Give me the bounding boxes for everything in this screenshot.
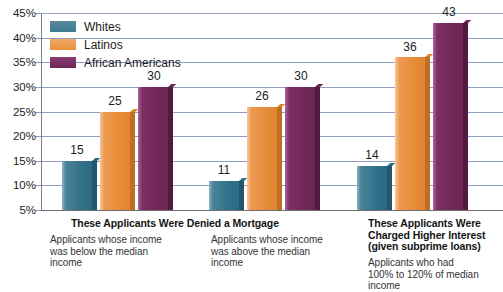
y-axis-label: 35%	[0, 56, 36, 68]
caption-group3-line1: Applicants who had	[368, 257, 454, 269]
bar-whites-group3	[357, 166, 387, 210]
bar-latinos-group3	[395, 57, 425, 210]
bar-african-americans-group1	[138, 87, 168, 210]
bar-face	[247, 107, 277, 210]
bar-value-label: 30	[294, 69, 307, 83]
y-axis-label: 30%	[0, 81, 36, 93]
bar-side	[92, 161, 97, 210]
bar-african-americans-group3	[433, 23, 463, 210]
bar-side	[130, 112, 135, 211]
y-axis-label: 20%	[0, 130, 36, 142]
bar-african-americans-group2	[285, 87, 315, 210]
bar-side	[315, 87, 320, 210]
bar-value-label: 26	[255, 89, 268, 103]
bar-value-label: 43	[442, 5, 455, 19]
bar-latinos-group2	[247, 107, 277, 210]
bar-value-label: 25	[108, 94, 121, 108]
bar-value-label: 15	[70, 143, 83, 157]
y-axis-label: 25%	[0, 106, 36, 118]
bar-face	[100, 112, 130, 211]
legend-item-latinos: Latinos	[50, 36, 181, 53]
bar-side	[168, 87, 173, 210]
caption-group2-line1: Applicants whose income	[211, 234, 323, 246]
bar-side	[277, 107, 282, 210]
legend-swatch-icon	[50, 39, 76, 50]
y-axis-label: 10%	[0, 179, 36, 191]
bar-side	[387, 166, 392, 210]
bar-top	[168, 84, 176, 87]
bar-face	[62, 161, 92, 210]
caption-group1-line2: was below the median	[50, 246, 148, 258]
bar-side	[239, 181, 244, 211]
bar-value-label: 14	[365, 148, 378, 162]
caption-heading-denied: These Applicants Were Denied a Mortgage	[71, 218, 279, 230]
bar-top	[463, 20, 471, 23]
bar-face	[209, 181, 239, 211]
caption-heading-interest-line1: These Applicants Were	[368, 218, 481, 230]
legend-label: Latinos	[84, 38, 123, 52]
bar-side	[425, 57, 430, 210]
legend-swatch-icon	[50, 21, 76, 32]
legend-label: Whites	[84, 20, 121, 34]
caption-heading-interest-line3: (given subprime loans)	[368, 241, 481, 253]
bar-whites-group2	[209, 181, 239, 211]
y-axis-label: 15%	[0, 155, 36, 167]
caption-group2-line3: income	[211, 257, 243, 269]
bar-latinos-group1	[100, 112, 130, 211]
bar-face	[138, 87, 168, 210]
y-axis-label: 40%	[0, 32, 36, 44]
bar-value-label: 11	[218, 163, 230, 177]
legend-label: African Americans	[84, 56, 181, 70]
caption-group3-line2: 100% to 120% of median	[368, 269, 479, 281]
bar-top	[315, 84, 323, 87]
y-axis-label: 45%	[0, 7, 36, 19]
bar-value-label: 36	[403, 40, 416, 54]
caption-group3-line3: income	[368, 280, 400, 292]
bar-whites-group1	[62, 161, 92, 210]
bar-side	[463, 23, 468, 210]
caption-group2-line2: was above the median	[211, 246, 310, 258]
bar-face	[395, 57, 425, 210]
legend-item-whites: Whites	[50, 18, 181, 35]
chart-captions: These Applicants Were Denied a Mortgage …	[0, 214, 503, 288]
bar-face	[433, 23, 463, 210]
bar-face	[285, 87, 315, 210]
caption-group1-line1: Applicants whose income	[50, 234, 162, 246]
bar-face	[357, 166, 387, 210]
legend-swatch-icon	[50, 57, 76, 68]
chart-legend: Whites Latinos African Americans	[50, 18, 181, 72]
caption-group1-line3: income	[50, 257, 82, 269]
legend-item-african-americans: African Americans	[50, 54, 181, 71]
